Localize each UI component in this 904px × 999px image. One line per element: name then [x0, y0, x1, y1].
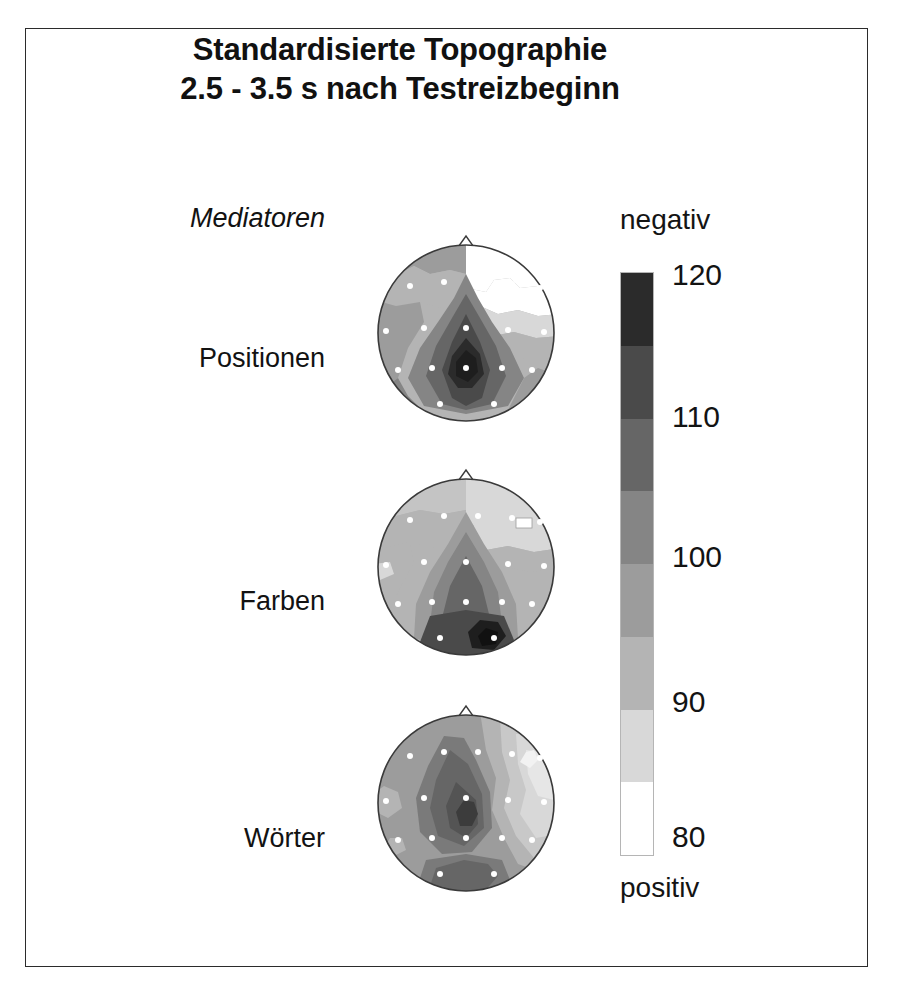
colorbar-band-2 — [621, 419, 653, 492]
colorbar-band-4 — [621, 564, 653, 637]
colorbar-tick-110: 110 — [672, 400, 720, 434]
colorbar-caption-positiv: positiv — [620, 872, 699, 904]
row-label-woerter: Wörter — [75, 823, 325, 854]
topography-map-positionen — [368, 218, 564, 428]
colorbar-tick-100: 100 — [672, 540, 722, 574]
colorbar — [620, 272, 654, 856]
colorbar-tick-90: 90 — [672, 685, 705, 719]
group-label-mediatoren: Mediatoren — [75, 203, 325, 234]
colorbar-band-0 — [621, 273, 653, 346]
page-title: Standardisierte Topographie 2.5 - 3.5 s … — [60, 30, 740, 108]
topography-map-farben — [368, 452, 564, 662]
colorbar-caption-negativ: negativ — [620, 204, 710, 236]
colorbar-band-6 — [621, 710, 653, 783]
row-label-positionen: Positionen — [75, 343, 325, 374]
colorbar-tick-120: 120 — [672, 258, 722, 292]
colorbar-band-3 — [621, 491, 653, 564]
title-line-1: Standardisierte Topographie — [60, 30, 740, 69]
topography-map-woerter — [368, 688, 564, 898]
title-line-2: 2.5 - 3.5 s nach Testreizbeginn — [60, 69, 740, 108]
figure-root: Standardisierte Topographie 2.5 - 3.5 s … — [0, 0, 904, 999]
contour-bands-positionen — [368, 218, 564, 428]
colorbar-band-7 — [621, 782, 653, 855]
row-label-farben: Farben — [75, 586, 325, 617]
colorbar-tick-80: 80 — [672, 820, 705, 854]
colorbar-band-5 — [621, 637, 653, 710]
colorbar-band-1 — [621, 346, 653, 419]
contour-bands-farben — [368, 452, 564, 662]
contour-bands-woerter — [368, 688, 564, 898]
